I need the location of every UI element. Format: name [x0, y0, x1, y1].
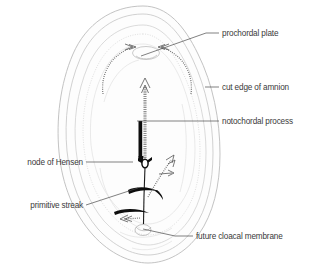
label-node-of-hensen: node of Hensen	[27, 158, 83, 167]
embryo-diagram-figure: prochordal plate cut edge of amnion noto…	[0, 0, 321, 272]
label-cut-edge-of-amnion: cut edge of amnion	[222, 83, 290, 92]
label-prochordal-plate: prochordal plate	[222, 29, 279, 38]
label-future-cloacal-membrane: future cloacal membrane	[196, 232, 283, 241]
label-notochordal-process: notochordal process	[222, 117, 293, 126]
label-primitive-streak: primitive streak	[30, 201, 84, 210]
